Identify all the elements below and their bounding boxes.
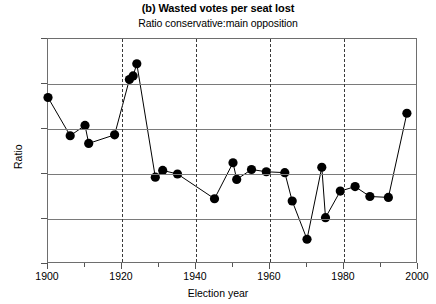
vertical-dashed-line xyxy=(196,39,197,262)
data-point-marker: 1975: 0.903 xyxy=(321,213,330,222)
y-tick-mark xyxy=(41,263,47,264)
data-point-marker: 1992: 0.948 xyxy=(384,193,393,202)
data-point-marker: 1970: 0.855 xyxy=(302,235,311,244)
x-tick-label: 1920 xyxy=(109,270,132,282)
data-point-marker: 1955: 1.01 xyxy=(247,165,256,174)
data-point-marker: 1924: 1.245 xyxy=(132,59,141,68)
x-axis-label: Election year xyxy=(0,287,436,299)
data-point-marker: 1950: 1.025 xyxy=(228,158,237,167)
data-point-marker: 1966: 0.94 xyxy=(288,196,297,205)
data-point-marker: 1923: 1.218 xyxy=(129,71,138,80)
data-point-marker: 1997: 1.135 xyxy=(402,109,411,118)
data-point-marker: 1951: 0.988 xyxy=(232,175,241,184)
data-point-marker: 1906: 1.085 xyxy=(66,131,75,140)
gridline-y xyxy=(48,84,416,85)
data-point-marker: 1918: 1.087 xyxy=(110,130,119,139)
y-axis-label: Ratio xyxy=(12,144,24,169)
data-point-marker: 1945: 0.945 xyxy=(210,194,219,203)
x-tick-label: 1980 xyxy=(331,270,354,282)
x-tick-label: 1900 xyxy=(35,270,58,282)
vertical-dashed-line xyxy=(122,39,123,262)
data-point-marker: 1900: 1.17 xyxy=(43,93,52,102)
chart-title: (b) Wasted votes per seat lost xyxy=(0,2,436,14)
plot-area: 1900: 1.171906: 1.0851910: 1.1081911: 1.… xyxy=(47,38,417,263)
vertical-dashed-line xyxy=(344,39,345,262)
chart-figure: (b) Wasted votes per seat lost Ratio con… xyxy=(0,0,436,304)
vertical-dashed-line xyxy=(270,39,271,262)
data-point-marker: 1964: 1.003 xyxy=(280,168,289,177)
series-line xyxy=(48,64,407,240)
data-point-marker: 1911: 1.068 xyxy=(84,139,93,148)
data-point-marker: 1974: 1.015 xyxy=(317,163,326,172)
data-point-marker: 1987: 0.95 xyxy=(365,192,374,201)
data-point-marker: 1983: 0.972 xyxy=(351,182,360,191)
chart-subtitle: Ratio conservative:main opposition xyxy=(0,17,436,29)
gridline-y xyxy=(48,174,416,175)
x-tick-label: 1960 xyxy=(257,270,280,282)
data-series-line: 1900: 1.171906: 1.0851910: 1.1081911: 1.… xyxy=(48,39,418,264)
x-tick-label: 1940 xyxy=(183,270,206,282)
gridline-y xyxy=(48,129,416,130)
x-tick-label: 2000 xyxy=(405,270,428,282)
gridline-y xyxy=(48,219,416,220)
